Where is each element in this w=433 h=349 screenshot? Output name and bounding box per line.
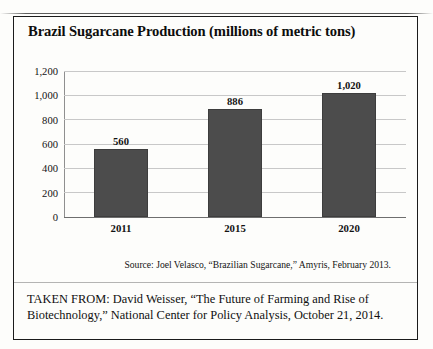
- bar-2020: 1,0202020: [322, 93, 376, 217]
- y-axis-tick-label: 1,000: [34, 90, 58, 101]
- bar-value-label: 560: [113, 136, 129, 147]
- y-axis-tick-label: 200: [42, 187, 58, 198]
- y-axis-tick-label: 400: [42, 163, 58, 174]
- y-axis-tick-label: 0: [53, 212, 58, 223]
- attribution-line-1: TAKEN FROM: David Weisser, “The Future o…: [27, 291, 405, 307]
- chart-area: 02004006008001,0001,200560201188620151,0…: [14, 55, 416, 250]
- gridline: [64, 71, 406, 72]
- x-axis-tick-label: 2011: [111, 222, 132, 234]
- attribution-line-2: Biotechnology,” National Center for Poli…: [27, 307, 405, 323]
- x-axis-tick-label: 2015: [224, 222, 246, 234]
- source-note: Source: Joel Velasco, “Brazilian Sugarca…: [14, 259, 403, 270]
- attribution-block: TAKEN FROM: David Weisser, “The Future o…: [27, 291, 405, 324]
- y-axis-tick-label: 600: [42, 139, 58, 150]
- plot-area: 02004006008001,0001,200560201188620151,0…: [64, 71, 406, 217]
- frame-divider: [14, 282, 417, 283]
- x-axis-tick-label: 2020: [338, 222, 360, 234]
- bar-2011: 5602011: [94, 149, 148, 217]
- figure-frame: Brazil Sugarcane Production (millions of…: [13, 16, 418, 340]
- bar-2015: 8862015: [208, 109, 262, 217]
- bar-value-label: 886: [227, 96, 243, 107]
- y-axis-tick-label: 1,200: [34, 66, 58, 77]
- chart-title: Brazil Sugarcane Production (millions of…: [28, 23, 404, 40]
- bar-value-label: 1,020: [337, 80, 361, 91]
- document-page: Brazil Sugarcane Production (millions of…: [0, 0, 433, 349]
- page-top-rule: [0, 13, 433, 14]
- y-axis-tick-label: 800: [42, 114, 58, 125]
